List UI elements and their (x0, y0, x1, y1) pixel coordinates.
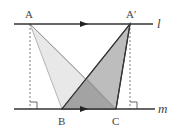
label-line-m: m (158, 101, 167, 116)
right-angle-mark-A-prime (130, 102, 137, 109)
label-B: B (58, 115, 65, 127)
label-A-prime: A′ (126, 8, 136, 20)
label-A: A (25, 8, 33, 20)
parallel-lines-triangle-diagram: A A′ B C l m (0, 0, 179, 130)
diagram-canvas: A A′ B C l m (0, 0, 179, 130)
arrow-icon-l (80, 21, 88, 27)
label-C: C (112, 115, 119, 127)
right-angle-mark-A (30, 102, 37, 109)
label-line-l: l (157, 16, 161, 31)
